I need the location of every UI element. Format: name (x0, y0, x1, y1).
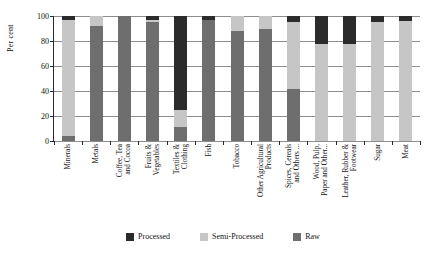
x-tick-mark (420, 141, 421, 145)
x-label-cell: Wood, Pulp,Paper and Other... (307, 144, 335, 222)
legend-item[interactable]: Raw (293, 232, 320, 241)
x-axis-label-line: Products (265, 144, 273, 197)
y-tick-label: 100 (37, 12, 54, 21)
legend-item[interactable]: Semi-Processed (200, 232, 263, 241)
y-tick-label: 60 (41, 62, 54, 71)
x-label-cell: Tobacco (223, 144, 251, 222)
x-label-cell: Textiles &Clothing (167, 144, 195, 222)
x-axis-label-line: and Others ... (293, 144, 301, 188)
stacked-bar (118, 16, 131, 141)
x-axis-label-line: Vegetables (153, 144, 161, 175)
bar-segment-semi-processed (315, 44, 328, 142)
stacked-bar (371, 16, 384, 141)
bar-column (336, 16, 364, 141)
x-axis-label: Wood, Pulp,Paper and Other... (313, 144, 329, 196)
legend-swatch (126, 233, 134, 241)
stacked-bar (259, 16, 272, 141)
x-axis-label-line: Clothing (181, 144, 189, 174)
bar-column (364, 16, 392, 141)
x-label-cell: Coffee, Teaand Cocoa (110, 144, 138, 222)
x-axis-label-line: Other Agricultural (257, 144, 265, 197)
bar-segment-semi-processed (174, 110, 187, 128)
x-axis-labels: MineralsMetalsCoffee, Teaand CocoaFruits… (54, 144, 420, 222)
x-axis-label: Minerals (64, 144, 72, 170)
legend-label: Raw (305, 232, 320, 241)
x-label-cell: Metals (82, 144, 110, 222)
legend-swatch (293, 233, 301, 241)
bar-segment-semi-processed (371, 22, 384, 141)
x-label-cell: Sugar (364, 144, 392, 222)
x-axis-label-line: Footwear (350, 144, 358, 198)
bar-segment-processed (343, 16, 356, 44)
stacked-bar (202, 16, 215, 141)
x-axis-label-line: Meat (402, 144, 410, 159)
stacked-bar (174, 16, 187, 141)
bar-segment-semi-processed (343, 44, 356, 142)
bar-column (82, 16, 110, 141)
x-label-cell: Minerals (54, 144, 82, 222)
x-axis-label-line: Fruits & (145, 144, 153, 175)
bar-segment-raw (146, 22, 159, 141)
x-axis-label: Leather, Rubber &Footwear (342, 144, 358, 198)
x-axis-label-line: Textiles & (173, 144, 181, 174)
bar-segment-semi-processed (62, 20, 75, 136)
bar-segment-semi-processed (231, 16, 244, 31)
plot-area: 020406080100 (54, 16, 420, 141)
bar-segment-raw (287, 89, 300, 142)
x-axis-label: Coffee, Teaand Cocoa (116, 144, 132, 177)
bar-column (279, 16, 307, 141)
x-axis-label: Tobacco (233, 144, 241, 168)
stacked-bar (90, 16, 103, 141)
y-tick-label: 0 (45, 137, 54, 146)
legend-label: Semi-Processed (212, 232, 263, 241)
bar-segment-raw (174, 127, 187, 141)
y-axis-title: Per cent (6, 0, 15, 52)
y-tick-label: 80 (41, 37, 54, 46)
bar-segment-processed (174, 16, 187, 110)
bar-column (223, 16, 251, 141)
bar-column (307, 16, 335, 141)
bar-segment-semi-processed (90, 16, 103, 26)
chart-legend: ProcessedSemi-ProcessedRaw (0, 232, 446, 241)
x-label-cell: Fruits &Vegetables (138, 144, 166, 222)
x-axis-label: Fruits &Vegetables (145, 144, 161, 175)
bar-column (54, 16, 82, 141)
stacked-bar (399, 16, 412, 141)
stacked-bar (287, 16, 300, 141)
bar-segment-semi-processed (399, 21, 412, 141)
x-axis-label: Other AgriculturalProducts (257, 144, 273, 197)
bar-column (195, 16, 223, 141)
bar-segment-raw (90, 26, 103, 141)
x-axis-label: Meat (402, 144, 410, 159)
x-axis-label: Spices, Cerealsand Others ... (285, 144, 301, 188)
x-axis-label-line: Fish (205, 144, 213, 156)
bar-segment-raw (231, 31, 244, 141)
bar-segment-semi-processed (287, 22, 300, 88)
x-axis-label-line: Sugar (374, 144, 382, 161)
y-tick-label: 20 (41, 112, 54, 121)
x-axis-label: Sugar (374, 144, 382, 161)
bar-column (110, 16, 138, 141)
stacked-bar (315, 16, 328, 141)
x-axis-label: Fish (205, 144, 213, 156)
x-axis-label-line: Leather, Rubber & (342, 144, 350, 198)
x-label-cell: Leather, Rubber &Footwear (336, 144, 364, 222)
legend-item[interactable]: Processed (126, 232, 170, 241)
x-label-cell: Spices, Cerealsand Others ... (279, 144, 307, 222)
y-tick-label: 40 (41, 87, 54, 96)
bar-segment-raw (202, 20, 215, 141)
x-label-cell: Other AgriculturalProducts (251, 144, 279, 222)
x-axis-label-line: Minerals (64, 144, 72, 170)
bar-column (251, 16, 279, 141)
bar-column (392, 16, 420, 141)
bar-column (138, 16, 166, 141)
x-axis-label-line: Tobacco (233, 144, 241, 168)
bar-segment-raw (118, 16, 131, 141)
stacked-bar (343, 16, 356, 141)
bar-segment-raw (259, 29, 272, 142)
x-axis-label: Metals (92, 144, 100, 164)
x-axis-label-line: and Cocoa (124, 144, 132, 177)
x-label-cell: Fish (195, 144, 223, 222)
legend-label: Processed (138, 232, 170, 241)
x-axis-label: Textiles &Clothing (173, 144, 189, 174)
